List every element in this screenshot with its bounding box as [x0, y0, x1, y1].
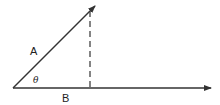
vector-a-label: A [30, 46, 37, 57]
vector-b-label: B [62, 93, 69, 104]
angle-theta-label: θ [33, 76, 38, 85]
vector-a-line [13, 6, 95, 88]
